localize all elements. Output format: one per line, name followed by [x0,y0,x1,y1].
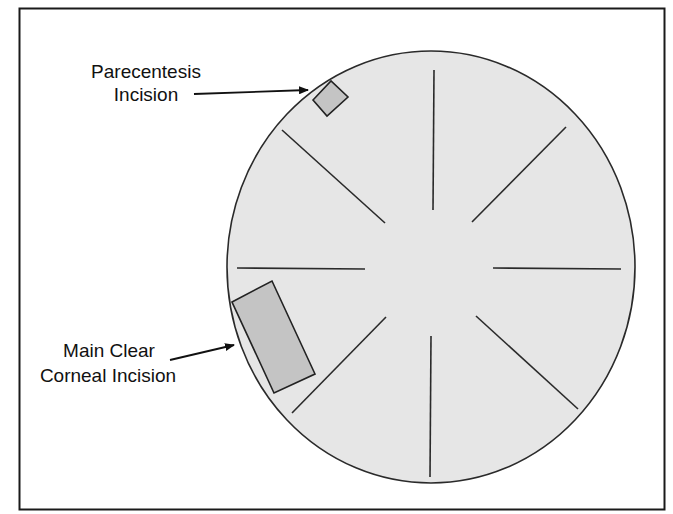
spoke-top [433,70,434,210]
diagram-stage: Parecentesis Incision Main Clear Corneal… [0,0,673,514]
spoke-bottom [430,336,431,477]
spoke-left [237,268,365,269]
paracentesis-label-line2: Incision [114,84,178,105]
incision-diagram: Parecentesis Incision Main Clear Corneal… [0,0,673,514]
spoke-right [493,268,621,269]
main-incision-label-line2: Corneal Incision [40,365,176,386]
paracentesis-label-line1: Parecentesis [91,61,201,82]
main-incision-label-line1: Main Clear [63,340,156,361]
